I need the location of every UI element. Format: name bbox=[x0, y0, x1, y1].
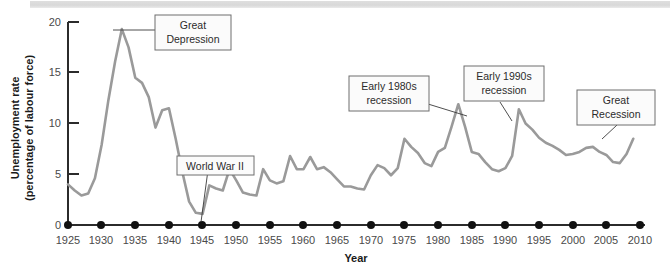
x-tick-dot-1955 bbox=[266, 221, 274, 229]
y-axis-tick-labels: 0 5 10 15 20 bbox=[49, 16, 61, 231]
annotation-early-1980s-recession[interactable]: Early 1980s recession bbox=[349, 76, 429, 111]
x-tick-label-1955: 1955 bbox=[258, 234, 282, 246]
x-tick-dot-1980 bbox=[434, 221, 442, 229]
x-tick-dot-2005 bbox=[602, 221, 610, 229]
y-tick-label-0: 0 bbox=[55, 219, 61, 231]
x-tick-label-1965: 1965 bbox=[325, 234, 349, 246]
annotation-great-recession-line1: Great bbox=[603, 94, 629, 106]
leader-line-early-1990s-recession bbox=[500, 102, 512, 121]
x-tick-label-1975: 1975 bbox=[392, 234, 416, 246]
y-axis-title-line1: Unemployment rate bbox=[9, 77, 21, 180]
x-tick-dot-1950 bbox=[232, 221, 240, 229]
x-tick-label-2010: 2010 bbox=[628, 234, 652, 246]
annotation-world-war-ii[interactable]: World War II bbox=[177, 156, 254, 175]
x-tick-label-1990: 1990 bbox=[493, 234, 517, 246]
annotation-early-1990s-recession[interactable]: Early 1990s recession bbox=[464, 66, 544, 101]
x-tick-dot-1965 bbox=[333, 221, 341, 229]
x-axis-title: Year bbox=[344, 252, 368, 264]
x-tick-dot-1995 bbox=[535, 221, 543, 229]
x-tick-dot-2010 bbox=[636, 221, 644, 229]
annotation-world-war-ii-line1: World War II bbox=[186, 160, 244, 172]
x-tick-label-1970: 1970 bbox=[359, 234, 383, 246]
x-tick-dot-1930 bbox=[97, 221, 105, 229]
unemployment-rate-line-chart: Unemployment rate (percentage of labour … bbox=[0, 0, 670, 271]
annotation-great-depression[interactable]: Great Depression bbox=[155, 15, 231, 50]
y-tick-label-20: 20 bbox=[49, 16, 61, 28]
x-tick-dot-1985 bbox=[468, 221, 476, 229]
x-tick-label-1995: 1995 bbox=[527, 234, 551, 246]
y-tick-label-10: 10 bbox=[49, 117, 61, 129]
x-tick-label-1935: 1935 bbox=[123, 234, 147, 246]
x-tick-dot-1935 bbox=[131, 221, 139, 229]
x-tick-dot-1975 bbox=[400, 221, 408, 229]
x-tick-label-2000: 2000 bbox=[561, 234, 585, 246]
y-axis-ticks bbox=[68, 22, 79, 225]
x-tick-dot-1970 bbox=[367, 221, 375, 229]
annotation-great-recession[interactable]: Great Recession bbox=[577, 90, 655, 125]
x-tick-label-1945: 1945 bbox=[190, 234, 214, 246]
unemployment-rate-series-line bbox=[68, 29, 633, 214]
annotation-great-recession-line2: Recession bbox=[591, 108, 640, 120]
x-tick-label-1985: 1985 bbox=[460, 234, 484, 246]
x-tick-label-1940: 1940 bbox=[157, 234, 181, 246]
y-axis-title-line2: (percentage of labour force) bbox=[23, 55, 35, 201]
x-tick-label-1960: 1960 bbox=[291, 234, 315, 246]
x-tick-dot-1925 bbox=[64, 221, 72, 229]
annotation-great-depression-line2: Depression bbox=[166, 33, 219, 45]
x-tick-dot-2000 bbox=[569, 221, 577, 229]
x-tick-label-1980: 1980 bbox=[426, 234, 450, 246]
y-tick-label-15: 15 bbox=[49, 66, 61, 78]
x-tick-label-1950: 1950 bbox=[224, 234, 248, 246]
x-tick-dot-1940 bbox=[165, 221, 173, 229]
leader-line-great-recession bbox=[602, 125, 617, 139]
annotation-great-depression-line1: Great bbox=[180, 19, 206, 31]
x-tick-dot-1990 bbox=[501, 221, 509, 229]
x-tick-label-1925: 1925 bbox=[56, 234, 80, 246]
x-tick-dot-1960 bbox=[299, 221, 307, 229]
x-tick-label-1930: 1930 bbox=[89, 234, 113, 246]
annotation-early-1990s-recession-line1: Early 1990s bbox=[476, 70, 531, 82]
y-tick-label-5: 5 bbox=[55, 168, 61, 180]
annotation-early-1990s-recession-line2: recession bbox=[482, 84, 527, 96]
x-tick-dot-1945 bbox=[198, 221, 206, 229]
annotation-early-1980s-recession-line2: recession bbox=[367, 94, 412, 106]
x-axis-tick-labels: 1925 1930 1935 1940 1945 1950 1955 1960 … bbox=[56, 234, 652, 246]
x-tick-label-2005: 2005 bbox=[594, 234, 618, 246]
annotation-early-1980s-recession-line1: Early 1980s bbox=[361, 80, 416, 92]
y-axis-title: Unemployment rate (percentage of labour … bbox=[9, 55, 35, 201]
chart-figure: Unemployment rate (percentage of labour … bbox=[0, 0, 670, 271]
